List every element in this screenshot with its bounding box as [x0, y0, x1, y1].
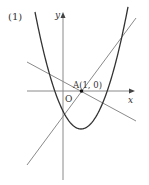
x-axis-arrow-icon: [129, 89, 135, 94]
graph-figure: (1) y x O A(1, 0): [0, 0, 149, 185]
parabola-curve: [35, 7, 128, 129]
x-axis-label: x: [128, 95, 133, 105]
origin-label: O: [65, 94, 72, 104]
point-a-label: A(1, 0): [72, 80, 102, 90]
y-axis-arrow-icon: [61, 12, 66, 18]
y-axis-label: y: [54, 10, 61, 20]
problem-label: (1): [8, 11, 22, 22]
